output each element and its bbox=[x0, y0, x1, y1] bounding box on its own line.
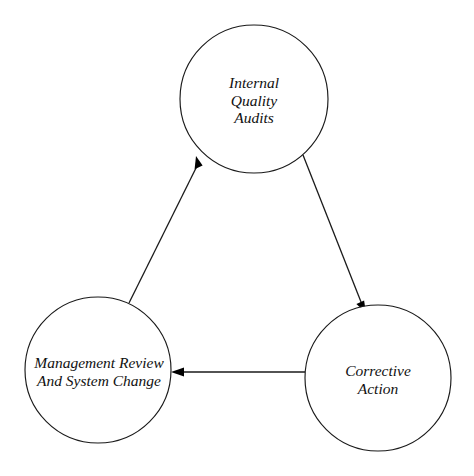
edge-corrective-action-to-management-review bbox=[171, 368, 305, 377]
edge-audits-to-corrective-action bbox=[303, 155, 366, 313]
node-circle-internal-quality-audits[interactable] bbox=[180, 25, 328, 173]
node-circle-corrective-action[interactable] bbox=[305, 305, 451, 451]
arrowhead-icon-internal-quality-audits bbox=[195, 156, 203, 169]
edge-line-audits-to-corrective-action bbox=[303, 155, 363, 307]
diagram-svg bbox=[0, 0, 474, 476]
edge-line-management-review-to-audits bbox=[129, 162, 199, 303]
edge-management-review-to-audits bbox=[129, 156, 203, 303]
arrowhead-icon-management-review bbox=[171, 368, 184, 377]
diagram-canvas: Internal Quality Audits Management Revie… bbox=[0, 0, 474, 476]
node-circle-management-review-and-system-change[interactable] bbox=[25, 297, 171, 443]
